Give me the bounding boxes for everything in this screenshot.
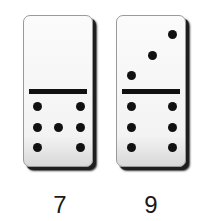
pip [127,71,136,80]
bottom-half [117,94,187,168]
pip [76,143,85,152]
pip [168,123,177,132]
pip [54,123,63,132]
top-half [117,16,187,89]
pip [76,102,85,111]
pip [168,102,177,111]
bottom-half [24,94,94,168]
pip [33,123,42,132]
domino-9 [116,15,186,167]
domino-9-label: 9 [131,193,171,217]
pip [168,30,177,39]
pip [127,102,136,111]
pip [33,143,42,152]
domino-7-label: 7 [40,193,80,217]
pip [127,143,136,152]
pip [127,123,136,132]
pip [168,143,177,152]
pip [33,102,42,111]
pip [148,51,157,60]
domino-7 [23,15,93,167]
pip [76,123,85,132]
